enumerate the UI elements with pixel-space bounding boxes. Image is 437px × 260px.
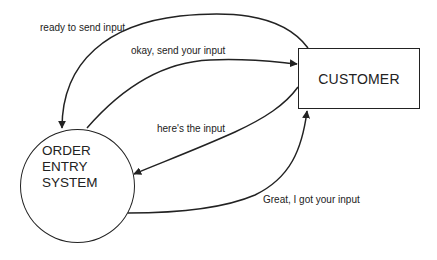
node-customer: CUSTOMER bbox=[298, 48, 420, 109]
diagram-canvas: ready to send input okay, send your inpu… bbox=[0, 0, 437, 260]
label-ready-to-send-input: ready to send input bbox=[40, 22, 125, 34]
node-order-entry-system-label: ORDER ENTRY SYSTEM bbox=[42, 143, 98, 191]
node-label-line-3: SYSTEM bbox=[42, 175, 98, 191]
label-okay-send-your-input: okay, send your input bbox=[131, 45, 225, 57]
label-great-i-got-your-input: Great, I got your input bbox=[263, 194, 360, 206]
node-order-entry-system: ORDER ENTRY SYSTEM bbox=[20, 129, 135, 243]
node-label-line-1: ORDER bbox=[42, 143, 98, 159]
node-label-line-2: ENTRY bbox=[42, 159, 98, 175]
node-customer-label: CUSTOMER bbox=[318, 71, 399, 87]
edge-okay-send-your-input bbox=[87, 59, 297, 128]
label-heres-the-input: here's the input bbox=[157, 123, 225, 135]
